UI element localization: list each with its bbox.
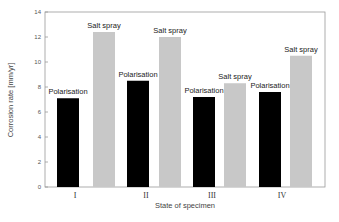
x-tick-label: II — [143, 191, 149, 200]
y-tick-label: 2 — [38, 159, 42, 165]
bar-label-salt-spray: Salt spray — [87, 21, 121, 30]
bar-polarisation — [57, 98, 79, 187]
bar-salt-spray — [224, 83, 246, 187]
bar-label-polarisation: Polarisation — [250, 81, 289, 90]
y-tick-label: 12 — [34, 34, 41, 40]
bar-salt-spray — [159, 37, 181, 187]
y-tick-label: 14 — [34, 9, 41, 15]
bar-label-salt-spray: Salt spray — [284, 45, 318, 54]
y-tick-label: 6 — [38, 109, 42, 115]
y-tick-label: 4 — [38, 134, 42, 140]
bar-label-salt-spray: Salt spray — [153, 26, 187, 35]
y-axis-title: Corrosion rate [mm/yr] — [6, 63, 15, 138]
y-tick-label: 8 — [38, 84, 42, 90]
plot-frame — [45, 12, 325, 187]
y-tick-label: 10 — [34, 59, 41, 65]
bar-polarisation — [193, 97, 215, 187]
bar-label-polarisation: Polarisation — [48, 87, 87, 96]
bar-polarisation — [259, 92, 281, 187]
bar-label-salt-spray: Salt spray — [218, 72, 252, 81]
bar-polarisation — [127, 81, 149, 187]
bar-label-polarisation: Polarisation — [118, 70, 157, 79]
x-tick-label: I — [74, 191, 77, 200]
x-tick-label: IV — [278, 191, 287, 200]
y-tick-label: 0 — [38, 184, 42, 190]
bar-label-polarisation: Polarisation — [184, 86, 223, 95]
bar-salt-spray — [93, 32, 115, 187]
x-axis-title: State of specimen — [155, 201, 215, 210]
bar-chart: 02468101214PolarisationSalt sprayIPolari… — [0, 0, 339, 222]
x-tick-label: III — [208, 191, 216, 200]
bar-salt-spray — [290, 56, 312, 187]
